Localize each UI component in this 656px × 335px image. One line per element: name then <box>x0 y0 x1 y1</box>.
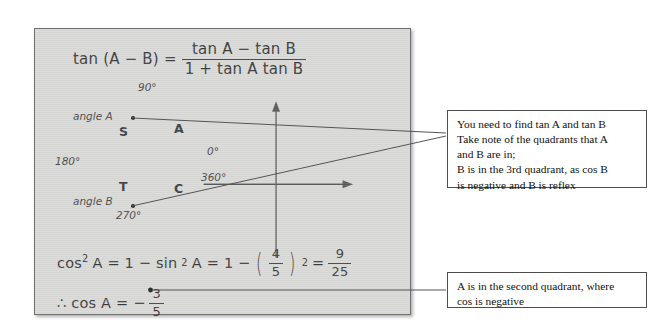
inner-numerator: 4 <box>269 247 283 261</box>
note-quadrants-line-1: You need to find tan A and tan B <box>457 117 638 132</box>
result-fraction: 9 25 <box>328 247 351 279</box>
open-paren: ( <box>256 253 262 274</box>
cos-a-fraction: 3 5 <box>149 287 163 319</box>
note-quadrants-line-2: Take note of the quadrants that A <box>457 132 638 147</box>
quadrant-label-s: S <box>119 124 128 139</box>
quadrant-label-t: T <box>119 179 128 194</box>
result-denominator: 25 <box>328 265 351 279</box>
cos-sq-lhs: cos2 <box>57 255 88 271</box>
cos-text: cos <box>57 255 82 271</box>
axis-label-360: 360° <box>201 171 226 183</box>
axis-label-90: 90° <box>138 81 157 93</box>
marker-label-angle-a: angle A <box>73 110 113 122</box>
cos-sq-tail: A = 1 − <box>192 255 251 271</box>
equation-cos-a-result: ∴ cos A = − 3 5 <box>57 287 164 319</box>
axis-label-270: 270° <box>116 209 141 221</box>
note-quadrants: You need to find tan A and tan B Take no… <box>447 110 647 188</box>
note-cos-a-line-2: cos is negative <box>457 294 638 309</box>
cos-exponent: 2 <box>82 253 88 264</box>
cos-a-denominator: 5 <box>149 305 163 319</box>
note-quadrants-line-4: B is in the 3rd quadrant, as cos B <box>457 162 638 177</box>
quadrant-label-c: C <box>174 181 183 196</box>
axis-label-0: 0° <box>207 145 219 157</box>
equation-cos-squared: cos2 A = 1 − sin2 A = 1 − ( 4 5 )2 = 9 2… <box>57 247 351 279</box>
close-paren: ) <box>289 253 295 274</box>
cos-sq-middle: A = 1 − sin <box>92 255 177 271</box>
note-quadrants-line-3: and B are in; <box>457 147 638 162</box>
axis-label-180: 180° <box>55 155 80 167</box>
note-cos-a: A is in the second quadrant, where cos i… <box>447 272 647 308</box>
worked-solution-panel: tan (A − B) = tan A − tan B 1 + tan A ta… <box>34 28 411 315</box>
note-quadrants-line-5: is negative and B is reflex <box>457 178 638 193</box>
note-cos-a-line-1: A is in the second quadrant, where <box>457 279 638 294</box>
cos-a-lhs: ∴ cos A = − <box>57 295 145 311</box>
marker-dot-angle-b <box>131 204 135 208</box>
quadrant-label-a: A <box>174 121 184 136</box>
inner-denominator: 5 <box>269 265 283 279</box>
figure-root: tan (A − B) = tan A − tan B 1 + tan A ta… <box>0 0 656 335</box>
cos-a-numerator: 3 <box>149 287 163 301</box>
marker-dot-angle-a <box>131 116 135 120</box>
equals-sign: = <box>312 255 324 271</box>
marker-label-angle-b: angle B <box>73 195 113 207</box>
result-numerator: 9 <box>333 247 347 261</box>
inner-fraction: 4 5 <box>269 247 283 279</box>
